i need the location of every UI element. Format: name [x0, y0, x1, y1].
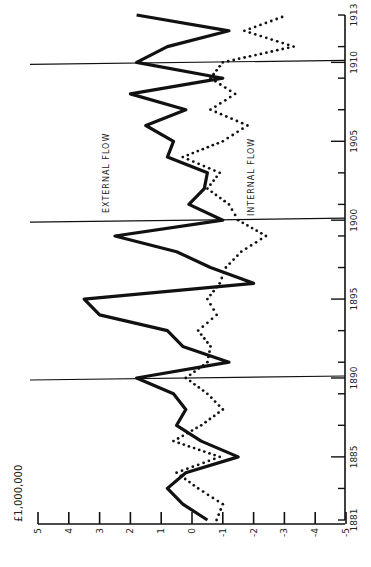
internal-flow-dot — [208, 459, 211, 462]
internal-flow-dot — [215, 175, 218, 178]
time-tick-label: 1910 — [349, 51, 359, 74]
internal-flow-dot — [219, 197, 222, 200]
internal-flow-dot — [206, 392, 209, 395]
internal-flow-dot — [218, 171, 221, 174]
internal-flow-dot — [206, 146, 209, 149]
internal-flow-dot — [224, 86, 227, 89]
internal-flow-dot — [241, 127, 244, 130]
internal-flow-dot — [213, 415, 216, 418]
internal-flow-dot — [232, 258, 235, 261]
internal-flow-dot — [218, 456, 221, 459]
internal-flow-dot — [191, 429, 194, 432]
internal-flow-dot — [203, 450, 206, 453]
value-tick-label: 5 — [33, 528, 43, 534]
internal-flow-dot — [214, 105, 217, 108]
internal-flow-dot — [234, 93, 237, 96]
internal-flow-dot — [191, 465, 194, 468]
internal-flow-dot — [241, 122, 244, 125]
internal-flow-dot — [207, 493, 210, 496]
value-axis: 543210-1-2-3-4-5 — [33, 512, 351, 537]
internal-flow-dot — [255, 229, 258, 232]
internal-flow-dot — [212, 73, 215, 76]
internal-flow-dot — [236, 254, 239, 257]
internal-flow-dot — [217, 411, 220, 414]
internal-flow-dot — [265, 51, 268, 54]
internal-flow-dot — [221, 503, 224, 506]
internal-flow-dot — [208, 167, 211, 170]
internal-flow-dot — [236, 120, 239, 123]
external-flow-line — [84, 15, 253, 520]
internal-flow-dot — [236, 130, 239, 133]
internal-flow-dot — [193, 383, 196, 386]
internal-flow-dot — [231, 134, 234, 137]
internal-flow-dot — [197, 386, 200, 389]
internal-flow-dot — [204, 421, 207, 424]
internal-flow-dot — [191, 152, 194, 155]
internal-flow-dot — [202, 461, 205, 464]
internal-flow-dot — [259, 35, 262, 38]
internal-flow-dot — [219, 102, 222, 105]
internal-flow-dot — [208, 350, 211, 353]
internal-flow-dot — [206, 187, 209, 190]
internal-flow-dot — [225, 115, 228, 118]
internal-flow-dot — [181, 469, 184, 472]
internal-flow-dot — [186, 432, 189, 435]
internal-flow-dot — [270, 20, 273, 23]
time-tick-label: 1895 — [349, 288, 359, 311]
internal-flow-dot — [192, 484, 195, 487]
internal-flow-dot — [214, 111, 217, 114]
internal-flow-dot — [216, 142, 219, 145]
internal-flow-dot — [215, 194, 218, 197]
internal-flow-dot — [281, 16, 284, 19]
internal-flow-dot — [184, 478, 187, 481]
internal-flow-dot — [248, 31, 251, 34]
internal-flow-dot — [275, 18, 278, 21]
internal-flow-dot — [229, 89, 232, 92]
internal-flow-dot — [222, 271, 225, 274]
internal-flow-dot — [189, 380, 192, 383]
external-flow-label: EXTERNAL FLOW — [102, 133, 111, 213]
internal-flow-dot — [187, 158, 190, 161]
internal-flow-dot — [276, 40, 279, 43]
internal-flow-dot — [211, 317, 214, 320]
internal-flow-dot — [287, 46, 290, 49]
internal-flow-dot — [209, 108, 212, 111]
internal-flow-dot — [230, 117, 233, 120]
internal-flow-dot — [259, 24, 262, 27]
internal-flow-dot — [192, 160, 195, 163]
internal-flow-dot — [212, 308, 215, 311]
internal-flow-dot — [181, 434, 184, 437]
internal-flow-dot — [209, 77, 212, 80]
internal-flow-dot — [224, 99, 227, 102]
internal-flow-dot — [197, 329, 200, 332]
time-tick-label: 1881 — [349, 509, 359, 532]
internal-flow-dot — [226, 137, 229, 140]
internal-flow-dot — [241, 221, 244, 224]
internal-flow-dot — [186, 154, 189, 157]
internal-flow-dot — [212, 497, 215, 500]
internal-flow-dot — [215, 69, 218, 72]
internal-flow-dot — [276, 49, 279, 52]
reference-line-1900 — [30, 218, 345, 222]
internal-flow-dot — [246, 224, 249, 227]
internal-flow-dot — [189, 373, 192, 376]
internal-flow-dot — [220, 113, 223, 116]
internal-flow-dot — [188, 481, 191, 484]
internal-flow-dot — [228, 262, 231, 265]
internal-flow-dot — [254, 26, 257, 29]
internal-flow-dot — [232, 59, 235, 62]
internal-flow-dot — [254, 33, 257, 36]
internal-flow-dot — [221, 61, 224, 64]
value-tick-label: 3 — [95, 528, 105, 534]
internal-flow-dot — [186, 467, 189, 470]
internal-flow-dot — [215, 286, 218, 289]
internal-flow-dot — [197, 162, 200, 165]
internal-flow-dot — [251, 227, 254, 230]
internal-flow-dot — [177, 437, 180, 440]
unit-label: £1,000,000 — [13, 465, 24, 522]
internal-flow-dot — [177, 442, 180, 445]
internal-flow-dot — [228, 203, 231, 206]
internal-flow-dot — [219, 508, 222, 511]
internal-flow-dot — [212, 290, 215, 293]
time-tick-label: 1913 — [349, 4, 359, 27]
